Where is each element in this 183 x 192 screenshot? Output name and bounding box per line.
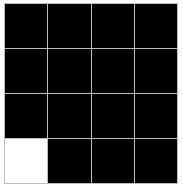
board-cell-r1-c2[interactable] — [48, 4, 90, 48]
board-cell-r4-c4[interactable] — [135, 139, 177, 183]
board-cell-r4-c3[interactable] — [92, 139, 134, 183]
board-cell-r3-c2[interactable] — [48, 94, 90, 138]
board-cell-r2-c3[interactable] — [92, 49, 134, 93]
board-cell-r3-c1[interactable] — [5, 94, 47, 138]
board-cell-r1-c3[interactable] — [92, 4, 134, 48]
board-cell-r1-c4[interactable] — [135, 4, 177, 48]
board-cell-r2-c1[interactable] — [5, 49, 47, 93]
board-cell-r4-c2[interactable] — [48, 139, 90, 183]
board-cell-r2-c4[interactable] — [135, 49, 177, 93]
board-cell-r3-c3[interactable] — [92, 94, 134, 138]
board-cell-r4-c1[interactable] — [5, 139, 47, 183]
board-cell-r3-c4[interactable] — [135, 94, 177, 138]
board-cell-r1-c1[interactable] — [5, 4, 47, 48]
board-cell-r2-c2[interactable] — [48, 49, 90, 93]
game-board — [4, 3, 178, 184]
